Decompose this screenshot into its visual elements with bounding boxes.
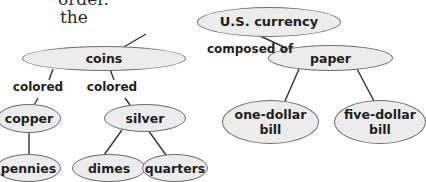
edge-coins-colored-left xyxy=(49,69,53,80)
node-copper: copper xyxy=(0,104,61,133)
edge-paper-onedollar xyxy=(285,69,299,101)
edge-silver-quarters xyxy=(148,130,166,155)
edge-paper-fivedollar xyxy=(357,69,374,101)
link-label-composed-of: composed of xyxy=(207,42,293,56)
node-one-dollar-bill: one-dollar bill xyxy=(222,100,319,144)
node-five-dollar-bill: five-dollar bill xyxy=(334,100,426,144)
node-us-currency: U.S. currency xyxy=(197,7,341,37)
link-label-colored-right: colored xyxy=(87,80,137,94)
edge-silver-dimes xyxy=(104,130,122,155)
node-dimes: dimes xyxy=(72,154,146,182)
link-label-colored-left: colored xyxy=(13,80,63,94)
node-silver: silver xyxy=(104,104,186,132)
node-coins: coins xyxy=(22,46,186,71)
node-quarters: quarters xyxy=(142,154,208,182)
